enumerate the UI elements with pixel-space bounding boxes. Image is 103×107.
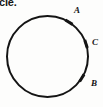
point-marker-c xyxy=(85,40,88,48)
point-marker-b xyxy=(80,74,84,81)
point-label-c: C xyxy=(92,38,98,47)
point-label-a: A xyxy=(74,6,80,15)
point-marker-a xyxy=(65,20,72,24)
circle-diagram-figure: cle. A C B xyxy=(0,0,103,107)
circle-diagram-canvas xyxy=(0,0,103,107)
circle-outline xyxy=(7,16,88,97)
point-label-b: B xyxy=(91,79,97,88)
